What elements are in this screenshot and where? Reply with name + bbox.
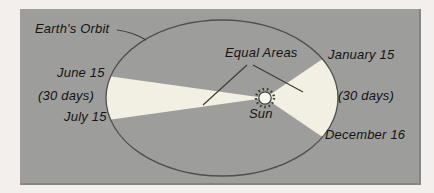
earths-orbit-label: Earth's Orbit — [35, 22, 109, 36]
june-15-label: June 15 — [57, 66, 105, 80]
sun-label: Sun — [249, 107, 273, 121]
july-15-label: July 15 — [64, 110, 107, 124]
december-16-label: December 16 — [325, 128, 405, 142]
equal-areas-label: Equal Areas — [225, 46, 298, 60]
figure-stage: Earth's Orbit June 15 (30 days) July 15 … — [0, 0, 434, 193]
equal-area-wedge-left — [80, 72, 265, 124]
sun-icon — [256, 89, 274, 107]
right-30-days-label: (30 days) — [338, 89, 394, 103]
earths-orbit-leader-line — [117, 30, 146, 40]
left-30-days-label: (30 days) — [38, 89, 94, 103]
january-15-label: January 15 — [328, 48, 394, 62]
